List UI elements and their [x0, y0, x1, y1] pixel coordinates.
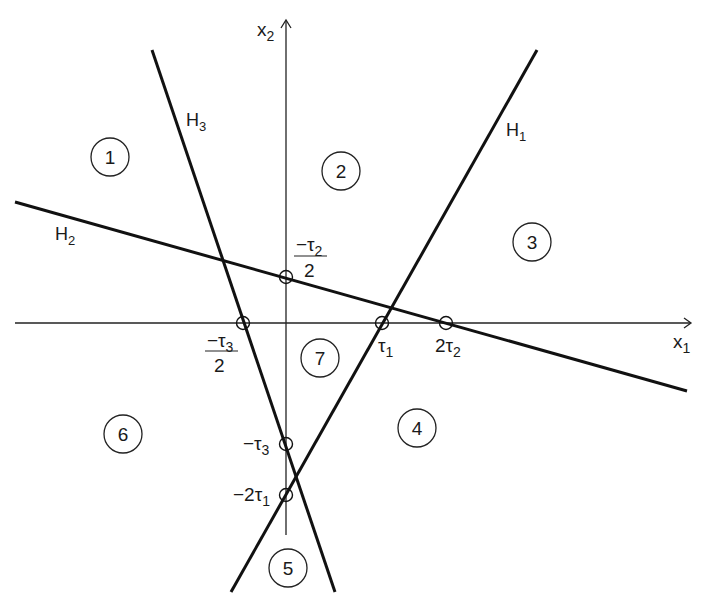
- region-2: 2: [322, 152, 360, 190]
- svg-text:6: 6: [118, 424, 129, 445]
- svg-text:−τ2: −τ2: [296, 234, 323, 259]
- line-h1: [231, 50, 537, 592]
- hyperplane-diagram: x2 x1 H3 H1 H2 −τ2 2 −τ3 2 τ1 2τ2 −τ3 −2…: [0, 0, 705, 602]
- line-h3: [152, 50, 335, 592]
- svg-text:3: 3: [527, 232, 538, 253]
- region-3: 3: [513, 223, 551, 261]
- svg-text:7: 7: [315, 348, 326, 369]
- svg-text:4: 4: [412, 418, 423, 439]
- label-h3: H3: [186, 110, 206, 134]
- label-neg-tau3-half: −τ3 2: [205, 330, 238, 376]
- svg-text:2: 2: [304, 260, 315, 281]
- line-h2: [15, 202, 687, 391]
- region-7: 7: [301, 339, 339, 377]
- region-1: 1: [91, 138, 129, 176]
- label-neg-tau2-half: −τ2 2: [294, 234, 327, 281]
- region-5: 5: [269, 549, 307, 587]
- label-h1: H1: [506, 120, 526, 144]
- svg-text:1: 1: [105, 147, 116, 168]
- region-4: 4: [398, 409, 436, 447]
- label-two-tau2: 2τ2: [435, 335, 461, 360]
- x1-axis-label: x1: [673, 331, 691, 356]
- svg-text:2: 2: [214, 355, 225, 376]
- svg-text:2: 2: [336, 161, 347, 182]
- label-neg-tau3: −τ3: [243, 433, 270, 458]
- x1-axis: [15, 318, 691, 328]
- label-tau1: τ1: [378, 335, 394, 360]
- label-h2: H2: [55, 224, 75, 248]
- svg-text:5: 5: [283, 558, 294, 579]
- region-6: 6: [104, 415, 142, 453]
- x2-axis-label: x2: [257, 19, 275, 44]
- label-neg-two-tau1: −2τ1: [233, 484, 270, 509]
